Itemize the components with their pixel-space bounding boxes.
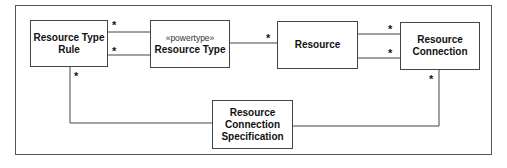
multiplicity-label: * (266, 33, 270, 43)
multiplicity-label: * (112, 46, 116, 56)
stereotype-label: «powertype» (166, 33, 215, 44)
class-resource-connection-specification[interactable]: Resource Connection Specification (212, 100, 293, 149)
class-name: Resource Type (155, 44, 226, 56)
class-name: Resource (417, 34, 463, 46)
class-name: Resource Type (34, 32, 105, 44)
class-resource[interactable]: Resource (277, 21, 358, 69)
class-name: Resource (295, 39, 341, 51)
class-resource-connection[interactable]: Resource Connection (400, 22, 480, 70)
class-name: Connection (413, 46, 468, 58)
multiplicity-label: * (388, 24, 392, 34)
multiplicity-label: * (112, 20, 116, 30)
multiplicity-label: * (74, 71, 78, 81)
class-name: Connection (225, 119, 280, 131)
assoc-rc-rcs (293, 70, 439, 126)
class-name: Rule (58, 44, 80, 56)
multiplicity-label: * (429, 74, 433, 84)
class-resource-type-rule[interactable]: Resource Type Rule (30, 20, 108, 67)
class-resource-type[interactable]: «powertype» Resource Type (150, 20, 230, 68)
multiplicity-label: * (388, 48, 392, 58)
class-name: Specification (221, 131, 283, 143)
class-name: Resource (230, 107, 276, 119)
assoc-rtr-rcs (70, 67, 212, 123)
